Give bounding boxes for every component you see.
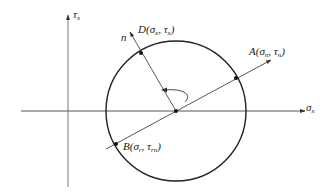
normal-n-label: n (121, 32, 127, 43)
sigma-axis-label: σx (306, 102, 315, 115)
point-a (234, 76, 238, 80)
point-a-label: A(σn, τn) (249, 46, 285, 59)
center-point (174, 109, 178, 113)
point-d-label: D(σx, τx) (138, 24, 174, 37)
rotation-arrowhead (161, 88, 167, 93)
point-b-label: B(σr, τrn) (123, 141, 161, 154)
tau-axis-label: τx (73, 9, 80, 22)
normal-line-n (130, 32, 176, 111)
point-b (114, 142, 118, 146)
point-d (139, 51, 143, 55)
